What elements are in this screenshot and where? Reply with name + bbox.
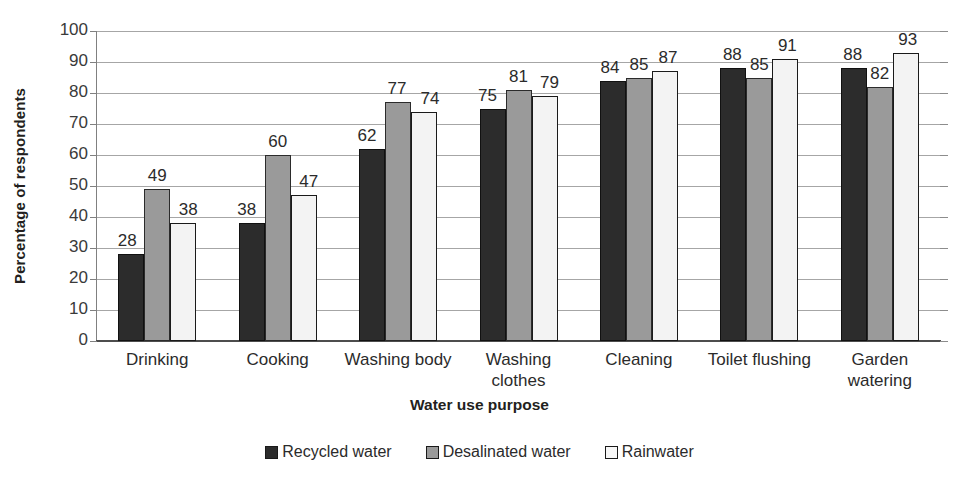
y-axis-tick [90, 279, 97, 280]
y-axis-tick-right [940, 341, 948, 342]
y-axis-tick-right [940, 310, 948, 311]
x-axis-category-label: Cooking [246, 349, 308, 370]
y-axis-tick-right [940, 248, 948, 249]
y-axis-tick-right [940, 217, 948, 218]
bar [291, 195, 317, 341]
y-axis-tick-label: 70 [46, 113, 88, 133]
bar [772, 59, 798, 341]
bar-value-label: 38 [237, 200, 256, 220]
bar-value-label: 91 [778, 36, 797, 56]
bar [600, 81, 626, 341]
bar [893, 53, 919, 341]
y-axis-tick-labels: 1009080706050403020100 [46, 31, 88, 341]
bar [265, 155, 291, 341]
bar-value-label: 85 [750, 55, 769, 75]
bar-value-label: 49 [148, 166, 167, 186]
y-axis-tick-label: 10 [46, 299, 88, 319]
bar [626, 78, 652, 342]
y-axis-tick [90, 341, 97, 342]
y-axis-tick [90, 93, 97, 94]
y-axis-tick-right [940, 186, 948, 187]
bar [144, 189, 170, 341]
x-axis-category-label: Garden watering [848, 349, 912, 391]
bar [239, 223, 265, 341]
bar-value-label: 77 [388, 79, 407, 99]
y-axis-tick-right [940, 93, 948, 94]
legend-swatch-icon [265, 446, 278, 459]
y-axis-tick-label: 80 [46, 82, 88, 102]
gridline [97, 31, 940, 32]
legend: Recycled waterDesalinated waterRainwater [0, 443, 959, 461]
bar [532, 96, 558, 341]
y-axis-tick [90, 248, 97, 249]
y-axis-tick-right [940, 31, 948, 32]
y-axis-tick-label: 40 [46, 206, 88, 226]
bar [867, 87, 893, 341]
bar-value-label: 88 [843, 45, 862, 65]
bar-value-label: 85 [629, 55, 648, 75]
y-axis-tick [90, 124, 97, 125]
y-axis-tick [90, 186, 97, 187]
bar [411, 112, 437, 341]
bar-value-label: 75 [478, 86, 497, 106]
bar-value-label: 62 [358, 126, 377, 146]
bar-value-label: 47 [299, 172, 318, 192]
bar-value-label: 87 [658, 48, 677, 68]
y-axis-tick-label: 30 [46, 237, 88, 257]
legend-label: Desalinated water [443, 443, 571, 461]
x-axis-category-label: Drinking [126, 349, 188, 370]
x-axis-category-label: Washing body [345, 349, 452, 370]
bar-value-label: 81 [509, 67, 528, 87]
bar [652, 71, 678, 341]
bar [746, 78, 772, 342]
y-axis-tick-label: 100 [46, 20, 88, 40]
bar-chart: Percentage of respondents 10090807060504… [0, 0, 959, 496]
bar [720, 68, 746, 341]
legend-label: Recycled water [282, 443, 391, 461]
legend-item[interactable]: Recycled water [265, 443, 391, 461]
bar [385, 102, 411, 341]
bar [480, 109, 506, 342]
bar [170, 223, 196, 341]
x-axis-category-label: Washing clothes [486, 349, 552, 391]
y-axis-tick [90, 31, 97, 32]
legend-label: Rainwater [622, 443, 694, 461]
x-axis-title: Water use purpose [0, 396, 959, 414]
plot-area: 2849383860476277747581798485878885918882… [97, 31, 940, 341]
y-axis-tick-right [940, 62, 948, 63]
bar-value-label: 93 [898, 30, 917, 50]
legend-swatch-icon [605, 446, 618, 459]
bar-value-label: 60 [268, 132, 287, 152]
y-axis-tick-label: 0 [46, 330, 88, 350]
bar [118, 254, 144, 341]
bar-value-label: 74 [421, 89, 440, 109]
y-axis-tick-right [940, 155, 948, 156]
y-axis-tick-right [940, 279, 948, 280]
bar-value-label: 28 [118, 231, 137, 251]
bar [506, 90, 532, 341]
y-axis-tick-right [940, 124, 948, 125]
x-axis-category-label: Cleaning [605, 349, 672, 370]
legend-item[interactable]: Rainwater [605, 443, 694, 461]
y-axis-tick-label: 50 [46, 175, 88, 195]
bar [841, 68, 867, 341]
legend-swatch-icon [426, 446, 439, 459]
bar-value-label: 38 [179, 200, 198, 220]
bar-value-label: 84 [600, 58, 619, 78]
y-axis-tick [90, 217, 97, 218]
y-axis-tick-label: 20 [46, 268, 88, 288]
bar-value-label: 88 [723, 45, 742, 65]
bar [359, 149, 385, 341]
y-axis-tick [90, 310, 97, 311]
y-axis-tick [90, 62, 97, 63]
y-axis-tick-label: 60 [46, 144, 88, 164]
y-axis-tick-label: 90 [46, 51, 88, 71]
bar-value-label: 82 [870, 64, 889, 84]
y-axis-tick [90, 155, 97, 156]
gridline [97, 62, 940, 63]
x-axis-category-label: Toilet flushing [708, 349, 811, 370]
bar-value-label: 79 [540, 73, 559, 93]
y-axis-title: Percentage of respondents [6, 31, 32, 341]
legend-item[interactable]: Desalinated water [426, 443, 571, 461]
